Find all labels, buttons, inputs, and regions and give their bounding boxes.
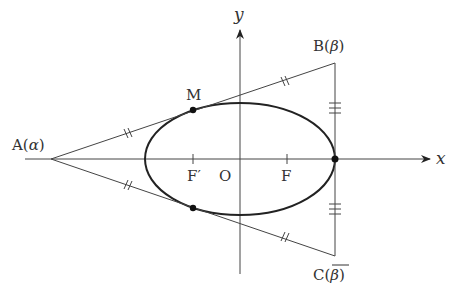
label-O: O (219, 167, 231, 185)
label-B: B(β) (313, 37, 344, 55)
label-F: F (281, 167, 291, 185)
ellipse-diagram: x y A(α) B(β) C(β) (0, 0, 457, 293)
point-M (190, 107, 196, 113)
point-M-conjugate (190, 205, 196, 211)
label-A: A(α) (11, 136, 45, 154)
point-vertex-right (332, 156, 339, 163)
label-C: C(β) (313, 266, 345, 284)
double-tick-lower-right (281, 232, 289, 242)
x-axis-label: x (436, 148, 446, 168)
y-axis-label: y (233, 4, 244, 24)
label-M: M (186, 86, 201, 104)
label-F-prime: F′ (187, 167, 201, 185)
